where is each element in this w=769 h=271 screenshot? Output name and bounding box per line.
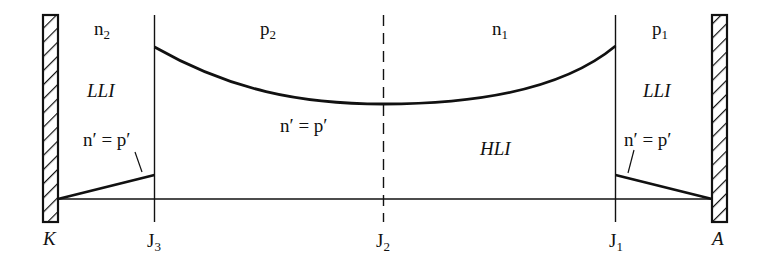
equal-carrier-left-label: n′ = p′ <box>83 129 131 150</box>
equal-carrier-center-label: n′ = p′ <box>280 115 328 136</box>
lli-left-curve <box>58 175 155 199</box>
equal-carrier-right-label: n′ = p′ <box>624 129 672 150</box>
hli-label: HLI <box>479 138 512 159</box>
junction-j2-label: J2 <box>376 230 390 254</box>
hli-carrier-curve <box>155 46 616 104</box>
cathode-label: K <box>42 228 57 249</box>
region-p1-label: p1 <box>652 18 668 42</box>
anode-label: A <box>710 228 724 249</box>
region-n2-label: n2 <box>94 18 110 42</box>
region-p2-label: p2 <box>260 18 276 42</box>
lli-right-curve <box>616 175 713 199</box>
thyristor-carrier-diagram: n2 p2 n1 p1 LLI HLI LLI n′ = p′ n′ = p′ … <box>0 0 769 271</box>
cathode-electrode <box>43 15 58 222</box>
anode-electrode <box>712 15 727 222</box>
lli-right-label: LLI <box>642 80 672 101</box>
lli-left-label: LLI <box>86 80 116 101</box>
leader-right <box>628 150 634 173</box>
junction-j1-label: J1 <box>609 230 623 254</box>
region-n1-label: n1 <box>492 18 508 42</box>
junction-j3-label: J3 <box>147 230 161 254</box>
leader-left <box>135 152 142 172</box>
